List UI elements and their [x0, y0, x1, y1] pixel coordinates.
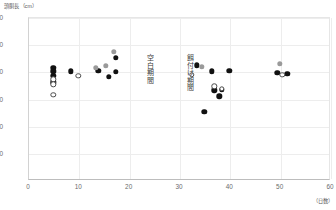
gridline-horizontal	[29, 18, 329, 19]
plot-area	[28, 17, 330, 180]
x-axis-tick-label: 30	[159, 183, 199, 190]
gridline-horizontal	[29, 100, 329, 101]
gridline-vertical	[79, 18, 80, 179]
gridline-vertical	[281, 18, 282, 179]
gridline-horizontal	[29, 127, 329, 128]
gridline-vertical	[130, 18, 131, 179]
y-axis-tick-label: 40	[0, 126, 3, 133]
y-axis-tick-label: 20	[0, 153, 3, 160]
plot-annotation: 餌付け期間	[185, 54, 195, 92]
gridline-vertical	[230, 18, 231, 179]
y-axis-tick-label: 100	[0, 44, 3, 51]
x-axis-tick-label: 10	[58, 183, 98, 190]
gridline-horizontal	[29, 45, 329, 46]
chart-container: 頭胴長（cm） （日数） 120100806040200102030405060…	[0, 0, 336, 210]
x-axis-tick-label: 0	[8, 183, 48, 190]
gridline-vertical	[331, 18, 332, 179]
x-axis-tick-label: 40	[209, 183, 249, 190]
x-axis-unit-label: （日数）	[313, 197, 333, 204]
gridline-horizontal	[29, 154, 329, 155]
y-axis-tick-label: 80	[0, 71, 3, 78]
y-axis-tick-label: 120	[0, 17, 3, 24]
plot-annotation: 空白期間	[145, 54, 155, 84]
gridline-vertical	[180, 18, 181, 179]
x-axis-tick-label: 50	[260, 183, 300, 190]
y-axis-label: 頭胴長（cm）	[4, 2, 37, 9]
x-axis-tick-label: 20	[109, 183, 149, 190]
x-axis-tick-label: 60	[310, 183, 336, 190]
y-axis-tick-label: 60	[0, 99, 3, 106]
